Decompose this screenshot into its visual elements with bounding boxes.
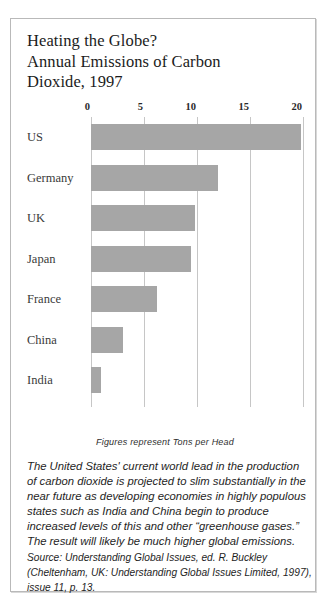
body-line-2: of carbon dioxide is projected to slim s…	[27, 474, 307, 489]
title-line-2: Annual Emissions of Carbon	[27, 52, 303, 73]
bar-india	[91, 367, 101, 393]
plot-area: USGermanyUKJapanFranceChinaIndia	[27, 117, 303, 407]
source-line-3: issue 11, p. 13.	[27, 580, 307, 595]
x-tick-label-20: 20	[292, 101, 306, 113]
x-tick-label-10: 10	[186, 101, 200, 113]
body-line-3: near future as developing economies in h…	[27, 489, 307, 504]
bar-japan	[91, 246, 191, 272]
body-line-4: states such as India and China begin to …	[27, 504, 307, 519]
source-line-2: (Cheltenham, UK: Understanding Global Is…	[27, 565, 307, 580]
category-label-japan: Japan	[27, 252, 87, 266]
body-line-6: The result will likely be much higher gl…	[27, 534, 307, 549]
category-label-china: China	[27, 333, 87, 347]
bar-rows: USGermanyUKJapanFranceChinaIndia	[27, 117, 303, 407]
bar-row: UK	[27, 198, 303, 239]
figure-body-text: The United States' current world lead in…	[27, 459, 307, 595]
figure-title: Heating the Globe? Annual Emissions of C…	[27, 31, 303, 93]
figure-card: Heating the Globe? Annual Emissions of C…	[10, 18, 316, 592]
bar-germany	[91, 165, 218, 191]
body-line-1: The United States' current world lead in…	[27, 459, 307, 474]
category-label-india: India	[27, 373, 87, 387]
x-tick-label-0: 0	[85, 101, 93, 113]
bar-row: France	[27, 279, 303, 320]
source-line-1: Source: Understanding Global Issues, ed.…	[27, 550, 307, 565]
bar-uk	[91, 205, 195, 231]
chart-caption: Figures represent Tons per Head	[27, 437, 303, 447]
bar-row: US	[27, 117, 303, 158]
title-line-3: Dioxide, 1997	[27, 72, 303, 93]
bar-china	[91, 327, 123, 353]
body-line-5: increased levels of this and other “gree…	[27, 519, 307, 534]
category-label-germany: Germany	[27, 171, 87, 185]
bar-france	[91, 286, 157, 312]
gridline-20	[303, 117, 304, 407]
x-tick-label-5: 5	[138, 101, 146, 113]
bar-row: China	[27, 320, 303, 361]
bar-row: Germany	[27, 158, 303, 199]
bar-row: Japan	[27, 239, 303, 280]
bar-row: India	[27, 360, 303, 401]
bar-us	[91, 124, 301, 150]
category-label-us: US	[27, 130, 87, 144]
title-line-1: Heating the Globe?	[27, 31, 303, 52]
category-label-uk: UK	[27, 211, 87, 225]
bar-chart: 05101520 USGermanyUKJapanFranceChinaIndi…	[27, 101, 303, 407]
category-label-france: France	[27, 292, 87, 306]
x-tick-label-15: 15	[239, 101, 253, 113]
x-axis-tick-labels: 05101520	[27, 101, 303, 117]
